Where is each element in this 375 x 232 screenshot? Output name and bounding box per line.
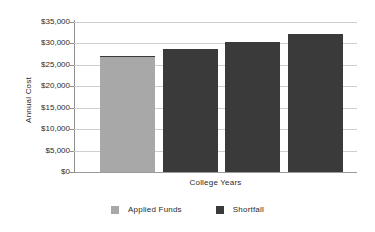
gridline xyxy=(74,22,357,23)
legend-item[interactable]: Applied Funds xyxy=(111,205,182,214)
y-axis-tick-mark xyxy=(70,108,74,109)
axis-baseline xyxy=(74,172,357,173)
bar-segment xyxy=(288,34,343,172)
y-axis-tick-label: $10,000 xyxy=(41,124,70,134)
y-axis-tick-mark xyxy=(70,65,74,66)
y-axis-tick-mark xyxy=(70,129,74,130)
y-axis-tick-label: $25,000 xyxy=(41,60,70,70)
y-axis-tick-mark xyxy=(70,172,74,173)
y-axis-tick-mark xyxy=(70,86,74,87)
bar-segment xyxy=(163,49,218,172)
y-axis-tick-mark xyxy=(70,22,74,23)
legend-label: Shortfall xyxy=(233,205,264,214)
x-axis-title: College Years xyxy=(74,178,357,187)
bar-group[interactable] xyxy=(225,42,280,172)
bar-segment xyxy=(225,42,280,172)
y-axis-tick-labels: $0$5,000$10,000$15,000$20,000$25,000$30,… xyxy=(30,22,72,172)
y-axis-tick-label: $5,000 xyxy=(46,146,70,156)
legend-swatch-icon xyxy=(111,206,119,214)
bar-chart: Annual Cost $0$5,000$10,000$15,000$20,00… xyxy=(0,0,375,232)
legend-item[interactable]: Shortfall xyxy=(216,205,264,214)
y-axis-tick-label: $35,000 xyxy=(41,17,70,27)
legend-swatch-icon xyxy=(216,206,224,214)
y-axis-tick-label: $0 xyxy=(61,167,70,177)
chart-legend: Applied FundsShortfall xyxy=(0,205,375,214)
bar-group[interactable] xyxy=(288,34,343,172)
bar-segment xyxy=(100,56,155,57)
plot-area xyxy=(74,22,357,172)
bar-group[interactable] xyxy=(163,49,218,172)
y-axis-tick-label: $30,000 xyxy=(41,38,70,48)
y-axis-tick-mark xyxy=(70,43,74,44)
y-axis-tick-label: $20,000 xyxy=(41,81,70,91)
y-axis-tick-mark xyxy=(70,151,74,152)
bar-group[interactable] xyxy=(100,56,155,172)
y-axis-tick-label: $15,000 xyxy=(41,103,70,113)
legend-label: Applied Funds xyxy=(128,205,182,214)
bar-segment xyxy=(100,57,155,172)
